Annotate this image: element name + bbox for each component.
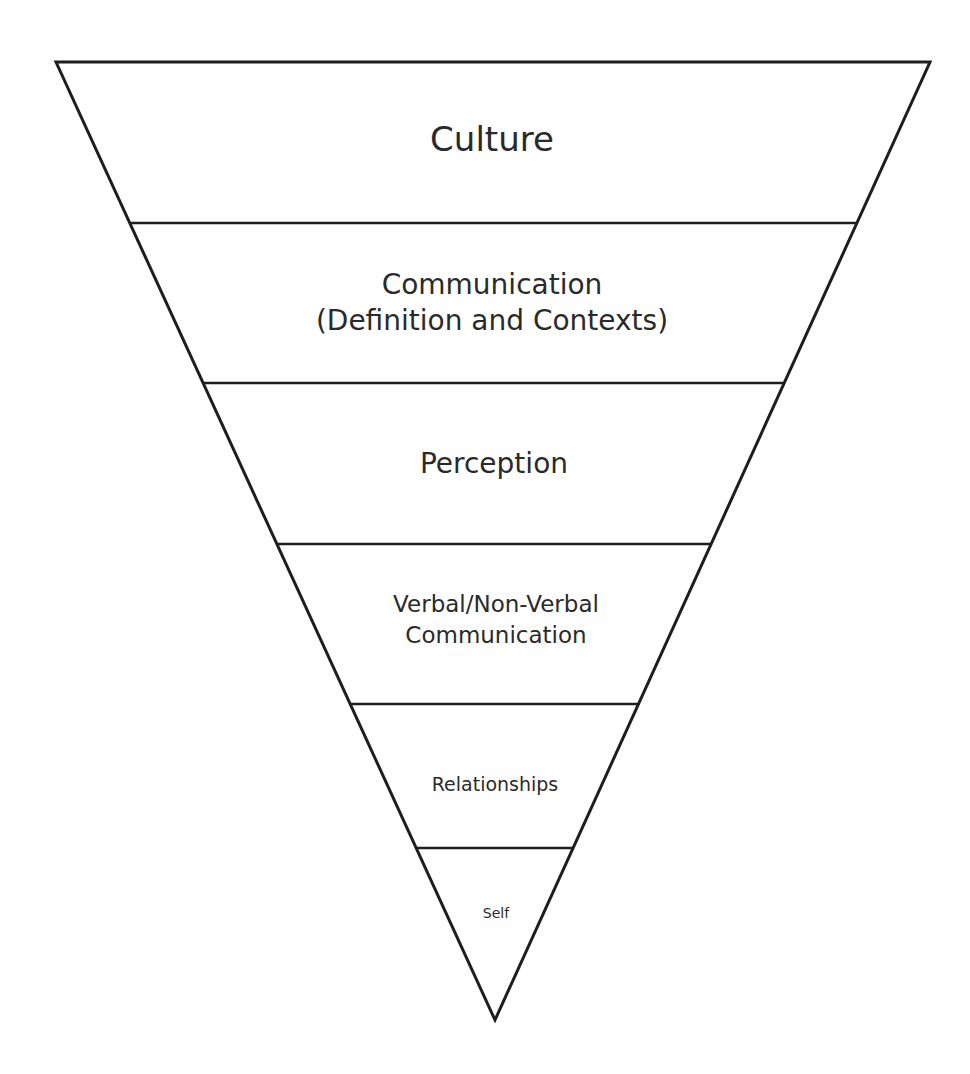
layer-label-relationships: Relationships	[432, 773, 559, 795]
layer-label-communication-line1: Communication	[382, 268, 603, 301]
layer-label-culture: Culture	[430, 119, 554, 159]
layer-label-communication-line2: (Definition and Contexts)	[316, 304, 668, 337]
layer-label-perception: Perception	[420, 447, 568, 480]
layer-label-self: Self	[483, 905, 510, 921]
layer-label-verbal-line2: Communication	[405, 622, 586, 648]
layer-label-verbal-line1: Verbal/Non-Verbal	[393, 591, 599, 617]
inverted-pyramid-diagram: Culture Communication (Definition and Co…	[0, 0, 970, 1074]
pyramid-outline	[56, 62, 930, 1020]
